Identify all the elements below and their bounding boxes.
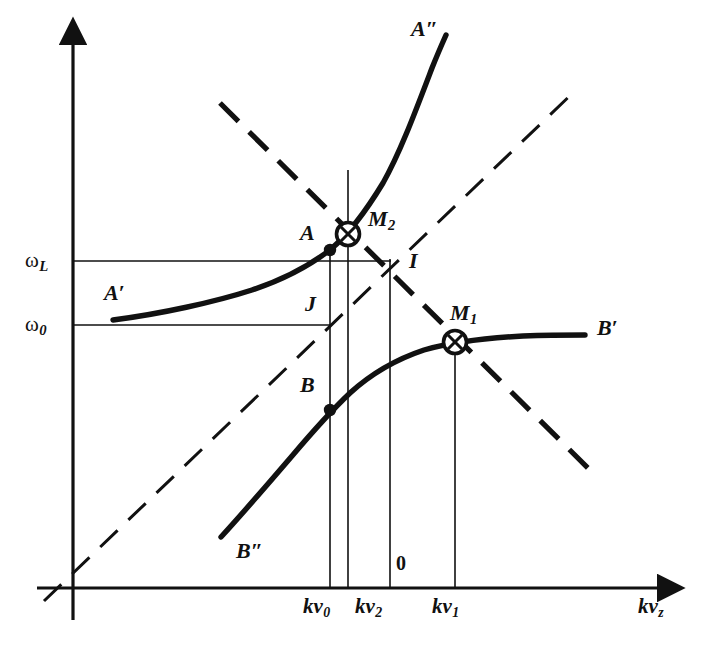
marker-point-B [324,404,336,416]
descending-dashed-asymptote [220,103,592,472]
x-tick-kv1: kv1 [432,596,459,620]
marker-point-A [324,244,336,256]
point-B-label: B [300,374,315,396]
figure-root: ωL ω0 kv0 kv2 kv1 kvz 0 A″ A′ B′ B″ A B … [0,0,725,659]
point-M1-label: M1 [450,302,477,327]
asymptote-group [44,88,592,601]
curve-B-start-label: B″ [236,540,262,562]
y-tick-omega-0: ω0 [25,314,47,338]
marker-M2 [337,223,360,246]
curve-A-start-label: A′ [104,282,124,304]
curve-group [113,35,585,537]
x-axis-label: kvz [638,596,664,620]
point-I-label: I [409,250,418,272]
origin-label: 0 [396,553,406,573]
point-J-label: J [305,293,316,315]
x-tick-kv0: kv0 [303,596,330,620]
x-tick-kv2: kv2 [355,596,382,620]
ascending-dashed-asymptote [44,88,578,601]
guide-lines [73,170,455,588]
curve-A-end-label: A″ [411,18,437,40]
point-A-label: A [300,222,315,244]
marker-group [324,223,467,417]
point-M2-label: M2 [368,208,395,233]
marker-M1 [444,331,467,354]
y-tick-omega-L: ωL [25,250,48,274]
curve-B-lower-branch [221,335,585,537]
curve-B-end-label: B′ [597,317,617,339]
